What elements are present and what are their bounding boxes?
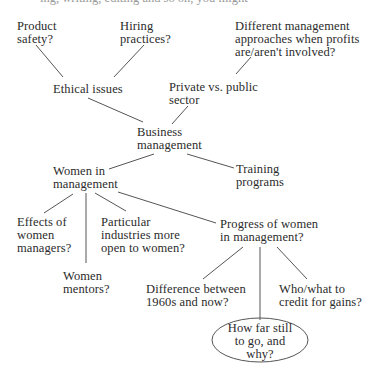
node-women-in-management: Women in management (53, 165, 118, 191)
edge-progress-who (277, 247, 307, 279)
edge-product-ethical (36, 45, 63, 77)
edge-progress-difference (203, 247, 243, 279)
node-ethical-issues: Ethical issues (53, 83, 123, 96)
node-how-far: How far still to go, and why? (220, 322, 300, 361)
node-difference-1960s: Difference between 1960s and now? (146, 283, 246, 309)
node-different-management: Different management approaches when pro… (235, 20, 359, 59)
edge-women-effects (44, 194, 73, 213)
edge-business-training (187, 154, 234, 168)
node-business-management: Business management (137, 126, 202, 152)
edge-different-private (236, 57, 251, 74)
edge-women-industries (95, 193, 126, 211)
node-women-mentors: Women mentors? (63, 270, 110, 296)
edge-ethical-business (88, 98, 143, 122)
node-product-safety: Product safety? (17, 20, 57, 46)
edge-hiring-ethical (114, 45, 144, 77)
node-who-what-credit: Who/what to credit for gains? (279, 283, 362, 309)
node-progress-women: Progress of women in management? (220, 218, 318, 244)
edge-private-business (172, 106, 188, 124)
node-training-programs: Training programs (236, 163, 284, 189)
node-private-public: Private vs. public sector (169, 81, 258, 107)
node-hiring-practices: Hiring practices? (120, 20, 171, 46)
node-effects-women-managers: Effects of women managers? (17, 216, 71, 255)
node-particular-industries: Particular industries more open to women… (101, 216, 185, 255)
